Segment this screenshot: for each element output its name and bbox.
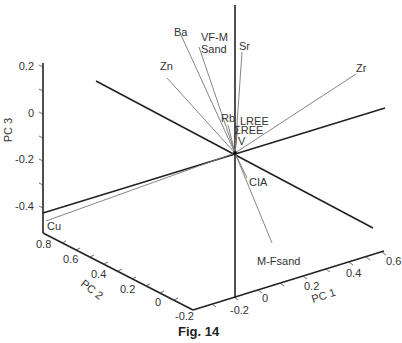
- pc3-tick-label: -0.2: [15, 153, 34, 165]
- vector-mfsand: [235, 153, 272, 243]
- pc2-tick-label: 0.8: [36, 238, 51, 250]
- pc2-tick-label: 0.4: [91, 268, 106, 280]
- pc3-axis-title: PC 3: [2, 118, 14, 142]
- label-zr: Zr: [356, 62, 367, 74]
- pc3-tick-label: -0.4: [15, 200, 34, 212]
- vector-zr: [235, 74, 356, 153]
- pc2-tick-label: -0.2: [175, 310, 194, 322]
- label-cu: Cu: [47, 220, 61, 232]
- pc2-tick-label: 0: [155, 296, 161, 308]
- label-cia: CIA: [249, 176, 268, 188]
- pc1-tick-label: -0.2: [230, 304, 249, 316]
- pc1-tick-label: 0.4: [346, 267, 361, 279]
- label-zn: Zn: [160, 60, 173, 72]
- origin-point: [233, 151, 237, 155]
- label-ba: Ba: [174, 26, 188, 38]
- pc1-tick-label: 0.6: [386, 255, 401, 267]
- vector-cu: [46, 153, 235, 221]
- figure-caption: Fig. 14: [178, 324, 220, 339]
- label-rb: Rb: [221, 112, 235, 124]
- vector-vfm-sand: [199, 47, 235, 153]
- pc3-tick-label: 0.2: [19, 60, 34, 72]
- pc2-tick-label: 0.2: [120, 283, 135, 295]
- pc2-axis-line: [43, 233, 193, 310]
- label-vfm-sand-line1: VF-M: [201, 31, 228, 43]
- pc1-tick-label: 0: [262, 292, 268, 304]
- pc3-tick-label: 0: [28, 107, 34, 119]
- label-sr: Sr: [239, 40, 250, 52]
- label-v: V: [238, 135, 246, 147]
- label-mfsand: M-Fsand: [257, 255, 300, 267]
- pc2-axis-title: PC 2: [79, 277, 106, 302]
- loading-vectors: [46, 35, 356, 243]
- pc2-tick-label: 0.6: [63, 253, 78, 265]
- label-vfm-sand-line2: Sand: [201, 43, 227, 55]
- biplot-3d: 0.2 0 -0.2 -0.4 PC 3 0.8 0.6 0.4 0.2 0 -…: [0, 0, 402, 343]
